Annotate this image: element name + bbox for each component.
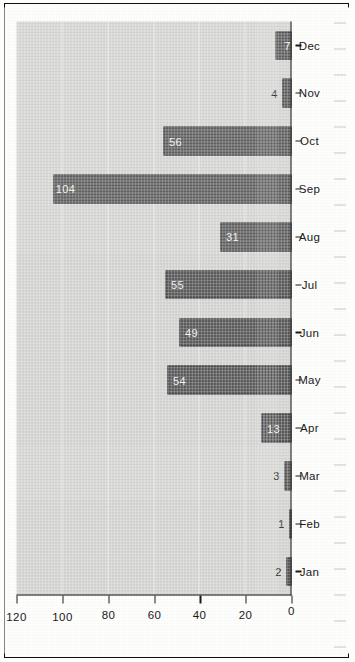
x-axis-category-label: Nov — [298, 87, 319, 99]
bar-value-label: 31 — [226, 231, 239, 243]
bar-value-label: 49 — [184, 326, 197, 338]
y-axis-tick — [245, 596, 246, 604]
bar-slot: 4 — [16, 69, 291, 117]
bar-slot: 49 — [16, 309, 291, 357]
y-axis-tick — [62, 596, 63, 604]
bar-texture — [168, 367, 290, 394]
x-axis-label-slot: Jun — [295, 309, 323, 357]
y-axis-tick — [154, 596, 155, 604]
bar[interactable]: 13 — [261, 414, 291, 443]
y-axis-tick — [108, 596, 109, 604]
x-axis-category-label: Jun — [299, 326, 318, 338]
plot-area: 21313544955311045647 — [16, 22, 291, 596]
y-axis-tick-label: 120 — [10, 608, 22, 648]
bar-slot: 1 — [16, 500, 291, 548]
x-axis-label-slot: Jul — [295, 261, 323, 309]
x-axis-category-label: Jan — [299, 566, 318, 578]
x-axis-label-slot: May — [295, 356, 323, 404]
x-axis-category-label: Oct — [300, 135, 319, 147]
bar-slot: 104 — [16, 165, 291, 213]
bar-value-label: 2 — [275, 566, 281, 578]
x-axis-label-slot: Mar — [295, 452, 323, 500]
bar-texture — [283, 80, 290, 107]
bar-slot: 31 — [16, 213, 291, 261]
bar[interactable]: 56 — [163, 127, 291, 156]
bar-value-label: 4 — [271, 87, 277, 99]
x-axis-category-label: Sep — [298, 183, 319, 195]
x-axis-category-labels: JanFebMarAprMayJunJulAugSepOctNovDec — [295, 22, 323, 596]
page-border-frame: 21313544955311045647 020406080100120 Jan… — [4, 3, 349, 658]
bar[interactable]: 49 — [179, 318, 291, 347]
bar-slot: 2 — [16, 548, 291, 596]
bar-value-label: 55 — [171, 279, 184, 291]
bar-value-label: 3 — [273, 470, 279, 482]
x-axis-category-label: Apr — [300, 422, 319, 434]
x-axis-category-label: Jul — [301, 279, 317, 291]
x-axis-label-slot: Feb — [295, 500, 323, 548]
x-axis-category-label: Aug — [298, 231, 319, 243]
bar-texture — [166, 271, 290, 298]
x-axis-category-label: Mar — [299, 470, 320, 482]
y-axis-tick — [199, 596, 200, 604]
bar[interactable]: 54 — [167, 366, 291, 395]
bar-value-label: 54 — [173, 374, 186, 386]
y-axis-tick-label: 100 — [56, 608, 68, 648]
bar-texture — [164, 128, 290, 155]
bar-value-label: 13 — [267, 422, 280, 434]
y-axis-tick-label: 40 — [193, 608, 205, 648]
x-axis-tick — [295, 284, 301, 285]
bar-slot: 7 — [16, 22, 291, 70]
x-axis-label-slot: Oct — [295, 117, 323, 165]
x-axis-label-slot: Nov — [295, 69, 323, 117]
y-axis-tick-label: 80 — [102, 608, 114, 648]
y-axis-tick-label: 0 — [285, 608, 297, 648]
y-axis-tick-label: 20 — [239, 608, 251, 648]
bar-slot: 56 — [16, 117, 291, 165]
y-axis-tick — [16, 596, 17, 604]
rotated-chart-stage: 21313544955311045647 020406080100120 Jan… — [4, 8, 349, 654]
plot-wrapper: 21313544955311045647 — [16, 22, 291, 596]
bar[interactable]: 104 — [53, 175, 291, 204]
x-axis-label-slot: Aug — [295, 213, 323, 261]
x-axis-label-slot: Dec — [295, 22, 323, 70]
bar[interactable]: 31 — [220, 222, 291, 251]
x-axis-line — [290, 22, 291, 596]
bar[interactable]: 55 — [165, 270, 291, 299]
bar-slot: 54 — [16, 356, 291, 404]
x-axis-label-slot: Apr — [295, 404, 323, 452]
bar-value-label: 1 — [278, 518, 284, 530]
y-axis-tick-label: 60 — [148, 608, 160, 648]
bar-slot: 3 — [16, 452, 291, 500]
y-axis-tick — [291, 596, 292, 604]
x-axis-category-label: May — [298, 374, 321, 386]
bar-texture — [54, 176, 290, 203]
x-axis-category-label: Feb — [299, 518, 320, 530]
bar-chart: 21313544955311045647 020406080100120 Jan… — [4, 8, 349, 654]
bar-value-label: 104 — [55, 183, 74, 195]
bar-slot: 55 — [16, 261, 291, 309]
scanned-page: 21313544955311045647 020406080100120 Jan… — [0, 0, 355, 662]
x-axis-category-label: Dec — [298, 39, 319, 51]
x-axis-label-slot: Jan — [295, 548, 323, 596]
x-axis-label-slot: Sep — [295, 165, 323, 213]
bar-value-label: 56 — [168, 135, 181, 147]
bar-series: 21313544955311045647 — [16, 22, 291, 596]
bar[interactable]: 7 — [275, 31, 291, 60]
bar-slot: 13 — [16, 404, 291, 452]
